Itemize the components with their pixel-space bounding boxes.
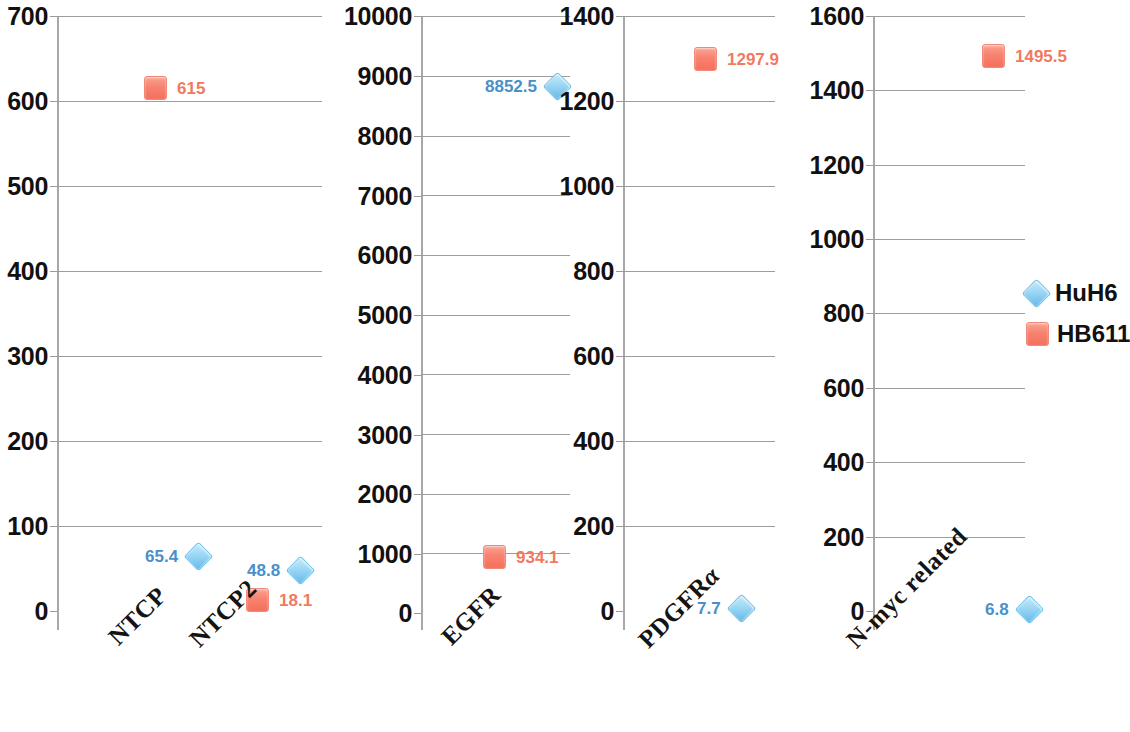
y-tick-mark	[866, 462, 873, 463]
data-label: 8852.5	[485, 78, 547, 95]
y-tick-label: 1000	[358, 542, 421, 567]
data-label: 934.1	[506, 549, 559, 566]
data-label: 18.1	[269, 592, 312, 609]
hb611-square-marker-icon	[694, 47, 717, 71]
y-tick-mark	[414, 136, 421, 137]
y-tick-label: 3000	[358, 423, 421, 448]
y-tick-mark	[50, 186, 57, 187]
y-tick-label: 10000	[344, 4, 421, 29]
y-tick-mark	[414, 494, 421, 495]
y-tick-mark	[50, 441, 57, 442]
y-tick-label: 7000	[358, 184, 421, 209]
hb611-square-marker-icon	[1026, 322, 1049, 346]
y-tick-label: 1600	[810, 4, 873, 29]
y-tick-mark	[866, 313, 873, 314]
data-label: 6.8	[985, 601, 1019, 618]
legend-item-hb611[interactable]: HB611	[1026, 322, 1130, 346]
y-tick-label: 1000	[810, 227, 873, 252]
y-tick-mark	[616, 611, 623, 612]
gridline	[623, 101, 775, 102]
gridline	[421, 16, 570, 17]
gridline	[57, 526, 322, 527]
huh6-diamond-marker-icon	[286, 555, 316, 585]
y-tick-label: 4000	[358, 363, 421, 388]
gridline	[873, 462, 1025, 463]
y-tick-mark	[50, 611, 57, 612]
panel-pdgfra-y-axis: 1400 1200 1000 800 600 400	[555, 0, 623, 732]
gridline	[623, 271, 775, 272]
gridline	[623, 441, 775, 442]
y-tick-mark	[414, 76, 421, 77]
y-tick-mark	[50, 101, 57, 102]
y-tick-mark	[616, 356, 623, 357]
panel-ntcp: 700 600 500 400 300 200	[0, 0, 322, 732]
huh6-diamond-marker-icon	[1022, 278, 1052, 308]
y-tick-label: 1200	[560, 89, 623, 114]
gridline	[623, 16, 775, 17]
y-tick-mark	[414, 315, 421, 316]
data-label: 48.8	[247, 562, 290, 579]
gridline	[623, 526, 775, 527]
gridline	[57, 16, 322, 17]
y-tick-mark	[616, 186, 623, 187]
panel-pdgfra: 1400 1200 1000 800 600 400	[555, 0, 810, 732]
gridline	[421, 434, 570, 435]
y-tick-mark	[50, 16, 57, 17]
gridline	[623, 356, 775, 357]
y-tick-mark	[616, 526, 623, 527]
y-axis-line	[421, 16, 423, 630]
y-tick-mark	[414, 255, 421, 256]
gridline	[57, 441, 322, 442]
gridline	[421, 255, 570, 256]
y-tick-mark	[414, 375, 421, 376]
y-tick-label: 1400	[810, 78, 873, 103]
y-tick-label: 6000	[358, 243, 421, 268]
y-tick-mark	[866, 388, 873, 389]
data-label: 1495.5	[1005, 48, 1067, 65]
hb611-square-marker-icon	[144, 76, 167, 100]
legend-item-huh6[interactable]: HuH6	[1026, 281, 1130, 305]
gridline	[873, 313, 1025, 314]
huh6-diamond-marker-icon	[1014, 594, 1044, 624]
y-tick-mark	[866, 90, 873, 91]
y-axis-line	[57, 16, 59, 630]
y-tick-label: 1400	[560, 4, 623, 29]
gridline	[421, 315, 570, 316]
chart-legend: HuH6 HB611	[1026, 281, 1130, 346]
y-tick-mark	[50, 271, 57, 272]
gridline	[421, 136, 570, 137]
gridline	[623, 186, 775, 187]
y-tick-mark	[414, 554, 421, 555]
y-tick-mark	[866, 239, 873, 240]
panel-egfr-plot-area: 8852.5 934.1	[421, 16, 570, 613]
gridline	[421, 195, 570, 196]
y-tick-label: 2000	[358, 482, 421, 507]
data-label: 1297.9	[717, 51, 779, 68]
panel-egfr-y-axis: 10000 9000 8000 7000 6000 5000	[330, 0, 421, 732]
data-label: 65.4	[145, 548, 188, 565]
y-tick-mark	[866, 16, 873, 17]
y-tick-mark	[616, 16, 623, 17]
gridline	[873, 165, 1025, 166]
y-tick-mark	[414, 196, 421, 197]
y-tick-mark	[866, 165, 873, 166]
y-tick-mark	[414, 435, 421, 436]
y-tick-label: 1200	[810, 153, 873, 178]
y-tick-mark	[50, 356, 57, 357]
data-label: 615	[167, 80, 205, 97]
panel-nmyc: 1600 1400 1200 1000 800 600	[805, 0, 1045, 732]
hb611-square-marker-icon	[483, 545, 506, 569]
y-tick-mark	[866, 537, 873, 538]
gridline	[873, 388, 1025, 389]
legend-label: HuH6	[1055, 281, 1118, 305]
y-tick-mark	[616, 271, 623, 272]
y-axis-line	[623, 16, 625, 630]
gridline	[873, 90, 1025, 91]
gridline	[873, 239, 1025, 240]
y-tick-label: 1000	[560, 174, 623, 199]
gridline	[57, 356, 322, 357]
huh6-diamond-marker-icon	[184, 541, 214, 571]
y-tick-mark	[616, 441, 623, 442]
y-tick-label: 5000	[358, 303, 421, 328]
